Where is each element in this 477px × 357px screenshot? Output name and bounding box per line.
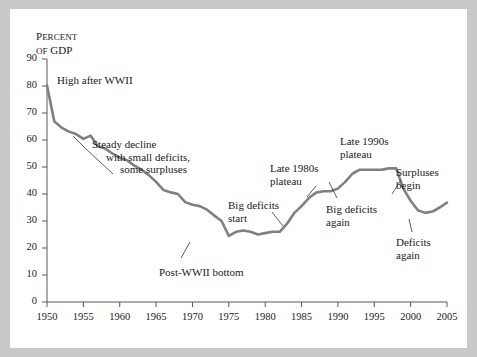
y-tick-label: 20 xyxy=(5,241,37,252)
annotation-line-2: with small deficits, xyxy=(92,151,190,164)
annotation-line-1: Steady decline xyxy=(92,138,156,150)
annotation-line-2: again xyxy=(326,216,377,229)
annotation-line-3: some surpluses xyxy=(92,163,190,176)
annotation-line-2: plateau xyxy=(340,148,389,161)
y-tick-marks xyxy=(42,59,47,302)
x-tick-marks xyxy=(47,302,447,307)
annotation-steady-decline: Steady decline with small deficits, some… xyxy=(92,138,190,176)
annotation-line-1: Late 1990s xyxy=(340,135,389,147)
annotation-late-1990s-plateau: Late 1990s plateau xyxy=(340,135,389,160)
annotation-line-1: Surpluses xyxy=(396,166,439,178)
annotation-high-after-wwii: High after WWII xyxy=(57,74,133,87)
y-tick-label: 0 xyxy=(5,295,37,306)
annotation-post-wwii-bottom: Post-WWII bottom xyxy=(159,266,244,279)
annotation-line-1: Late 1980s xyxy=(270,162,319,174)
annotation-line-2: start xyxy=(228,212,279,225)
annotation-surpluses-begin: Surpluses begin xyxy=(396,166,439,191)
y-tick-label: 10 xyxy=(5,268,37,279)
annotation-line-1: High after WWII xyxy=(57,74,133,86)
annotation-deficits-again: Deficits again xyxy=(396,236,431,261)
annotation-line-2: plateau xyxy=(270,175,319,188)
annotation-line-1: Big deficits xyxy=(326,203,377,215)
y-tick-label: 80 xyxy=(5,79,37,90)
annotation-late-1980s-plateau: Late 1980s plateau xyxy=(270,162,319,187)
leader-deficits-again xyxy=(409,219,412,232)
annotation-line-2: again xyxy=(396,249,431,262)
y-tick-label: 90 xyxy=(5,52,37,63)
annotation-line-2: begin xyxy=(396,179,439,192)
annotation-line-1: Post-WWII bottom xyxy=(159,266,244,278)
y-tick-label: 50 xyxy=(5,160,37,171)
annotation-line-1: Big deficits xyxy=(228,199,279,211)
annotation-big-deficits-again: Big deficits again xyxy=(326,203,377,228)
y-tick-label: 60 xyxy=(5,133,37,144)
x-tick-label: 2005 xyxy=(425,311,469,322)
leader-post-wwii-bottom xyxy=(181,242,190,258)
annotation-line-1: Deficits xyxy=(396,236,431,248)
y-tick-label: 30 xyxy=(5,214,37,225)
y-tick-label: 70 xyxy=(5,106,37,117)
figure-frame: PERCENT OF GDP 0102030405060708090 19501… xyxy=(0,0,477,357)
annotation-big-deficits-start: Big deficits start xyxy=(228,199,279,224)
y-tick-label: 40 xyxy=(5,187,37,198)
